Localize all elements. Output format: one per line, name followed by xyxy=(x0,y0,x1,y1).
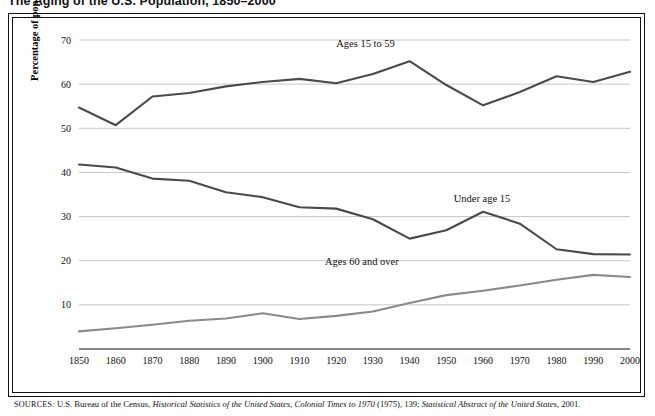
source-italic-2: Statistical Abstract of the United State… xyxy=(422,399,559,409)
series-labels: Ages 15 to 59Under age 15Ages 60 and ove… xyxy=(325,38,510,268)
svg-text:1960: 1960 xyxy=(473,355,493,366)
series-label: Ages 60 and over xyxy=(325,256,399,267)
svg-text:1860: 1860 xyxy=(106,355,126,366)
figure-root: The Aging of the U.S. Population, 1850–2… xyxy=(0,0,655,416)
y-tick-labels: 10203040506070 xyxy=(61,35,71,311)
svg-text:1890: 1890 xyxy=(216,355,236,366)
series-lines xyxy=(79,61,630,331)
figure-frame-inner: Percentage of population 10203040506070 … xyxy=(12,17,641,393)
source-text-2: (1975), 139; xyxy=(375,399,422,409)
svg-text:10: 10 xyxy=(61,299,71,310)
source-text-3: 2001. xyxy=(559,399,580,409)
svg-text:1900: 1900 xyxy=(253,355,273,366)
svg-text:20: 20 xyxy=(61,255,71,266)
svg-text:40: 40 xyxy=(61,167,71,178)
svg-text:1990: 1990 xyxy=(583,355,603,366)
source-label: SOURCES: xyxy=(14,400,55,409)
svg-text:1870: 1870 xyxy=(142,355,162,366)
series-label: Ages 15 to 59 xyxy=(336,38,395,49)
svg-text:1880: 1880 xyxy=(179,355,199,366)
svg-text:1950: 1950 xyxy=(436,355,456,366)
source-italic-1: Historical Statistics of the United Stat… xyxy=(152,399,375,409)
plot-area: Percentage of population 10203040506070 … xyxy=(13,18,644,396)
svg-text:30: 30 xyxy=(61,211,71,222)
svg-text:1940: 1940 xyxy=(400,355,420,366)
line-chart: 10203040506070 1850186018701880189019001… xyxy=(13,18,644,396)
figure-frame: Percentage of population 10203040506070 … xyxy=(8,13,645,397)
svg-text:1930: 1930 xyxy=(363,355,383,366)
svg-text:1980: 1980 xyxy=(547,355,567,366)
svg-text:60: 60 xyxy=(61,79,71,90)
svg-text:1910: 1910 xyxy=(289,355,309,366)
svg-text:50: 50 xyxy=(61,123,71,134)
figure-title: The Aging of the U.S. Population, 1850–2… xyxy=(8,0,276,8)
svg-text:1970: 1970 xyxy=(510,355,530,366)
svg-text:1850: 1850 xyxy=(69,355,89,366)
series-label: Under age 15 xyxy=(454,193,511,204)
svg-text:70: 70 xyxy=(61,35,71,46)
source-text-1: U.S. Bureau of the Census, xyxy=(57,399,152,409)
svg-text:1920: 1920 xyxy=(326,355,346,366)
source-note: SOURCES: U.S. Bureau of the Census, Hist… xyxy=(14,399,645,409)
x-tick-labels: 1850186018701880189019001910192019301940… xyxy=(69,355,640,366)
svg-text:2000: 2000 xyxy=(620,355,640,366)
